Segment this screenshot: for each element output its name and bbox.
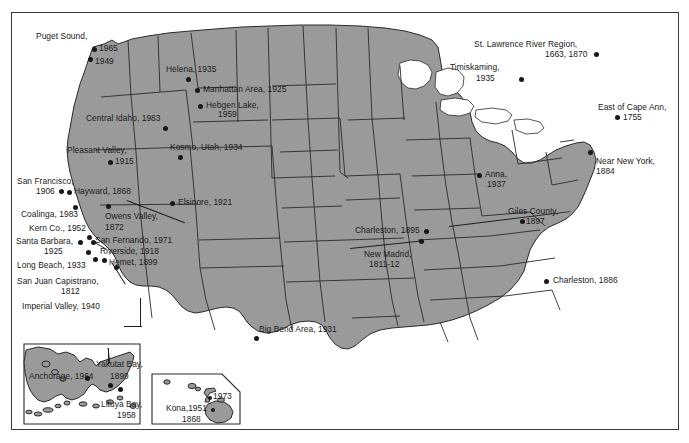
earthquake-map-figure: .land { fill:#9a9a9a; stroke:#2a2a2a; st… [0,0,689,443]
marker-anna[interactable] [477,173,482,178]
marker-new-madrid[interactable] [419,239,424,244]
label-owens-valley: Owens Valley, [105,212,158,222]
label-long-beach: Long Beach, 1933 [17,261,86,271]
marker-hebgen-lake[interactable] [198,104,203,109]
label-yakutat-bay-year: 1899 [110,372,129,382]
marker-near-new-york[interactable] [588,150,593,155]
leader-imperial-valley-v [140,298,141,326]
label-big-bend-area: Big Bend Area, 1931 [259,325,337,335]
marker-hawaii-1973[interactable] [208,396,212,400]
marker-manhattan-area[interactable] [195,88,200,93]
marker-timiskaming[interactable] [519,77,524,82]
label-kona: Kona,1951 [166,404,207,414]
label-pleasant-valley-year: 1915 [115,157,134,167]
marker-elsinore[interactable] [170,201,175,206]
marker-yakutat-bay[interactable] [108,383,113,388]
marker-big-bend-area[interactable] [254,336,259,341]
marker-long-beach[interactable] [93,257,98,262]
label-timiskaming: Timiskaming, [450,63,500,73]
marker-charleston-1895[interactable] [424,229,429,234]
label-imperial-valley: Imperial Valley, 1940 [22,302,100,312]
label-puget-sound-1949: 1949 [95,57,114,67]
label-central-idaho: Central Idaho, 1983 [86,114,161,124]
label-new-madrid-year: 1811-12 [369,260,399,270]
label-kern-co: Kern Co., 1952 [29,224,86,234]
label-hayward: Hayward, 1868 [74,187,131,197]
label-near-new-york-year: 1884 [596,167,615,177]
label-giles-county-year: 1897 [526,217,545,227]
label-elsinore: Elsinore, 1921 [178,198,232,208]
label-lituya-bay: Lituya Bay, [101,400,142,410]
marker-owens-valley[interactable] [106,204,111,209]
marker-central-idaho[interactable] [163,126,168,131]
label-lituya-bay-year: 1958 [117,411,136,421]
label-kona-year: 1868 [182,415,201,425]
conus-landmass [67,25,596,349]
label-charleston-1886: Charleston, 1886 [553,276,618,286]
marker-pleasant-valley[interactable] [108,160,113,165]
label-timiskaming-year: 1935 [476,74,495,84]
label-san-juan-capistrano: San Juan Capistrano, [17,277,99,287]
marker-charleston-1886[interactable] [544,279,549,284]
label-manhattan-area: Manhattan Area, 1925 [203,85,286,95]
marker-lituya-bay[interactable] [118,387,123,392]
label-san-fernando: San Fernando, 1971 [95,236,172,246]
marker-giles-county[interactable] [520,219,525,224]
marker-puget-sound-1965[interactable] [92,47,97,52]
marker-kona[interactable] [211,408,215,412]
label-hawaii-1973: 1973 [213,392,232,402]
label-pleasant-valley: Pleasant Valley, [67,146,127,156]
marker-kern-co[interactable] [87,235,92,240]
leader-imperial-valley [124,326,142,327]
label-helena: Helena, 1935 [166,65,216,75]
marker-kosmo-utah[interactable] [178,155,183,160]
marker-hemet[interactable] [102,258,107,263]
label-east-of-cape-ann-year: 1755 [623,113,642,123]
marker-san-francisco[interactable] [59,189,64,194]
marker-east-of-cape-ann[interactable] [615,115,620,120]
marker-hayward[interactable] [67,190,72,195]
label-charleston-1895: Charleston, 1895 [355,226,420,236]
marker-riverside[interactable] [86,250,91,255]
marker-helena[interactable] [186,77,191,82]
marker-puget-sound-1949[interactable] [88,57,93,62]
label-kosmo-utah: Kosmo, Utah, 1934 [170,143,243,153]
label-st-lawrence-river-region-years: 1663, 1870 [545,50,587,60]
marker-st-lawrence[interactable] [594,52,599,57]
label-puget-sound: Puget Sound, [36,32,87,42]
label-hebgen-lake-year: 1959 [218,110,237,120]
label-owens-valley-year: 1872 [105,223,124,233]
label-san-francisco-year: 1906 [36,187,55,197]
label-anchorage: Anchorage, 1964 [29,372,94,382]
marker-santa-barbara[interactable] [78,240,83,245]
label-riverside: Riverside, 1918 [100,247,159,257]
label-san-juan-capistrano-year: 1812 [61,287,80,297]
label-anna-year: 1937 [487,180,506,190]
label-hemet: Hemet, 1899 [109,258,158,268]
label-coalinga: Coalinga, 1983 [21,210,78,220]
label-puget-sound-1965: 1965 [99,44,118,54]
label-santa-barbara-year: 1925 [44,247,63,257]
label-yakutat-bay: Yakutat Bay, [96,360,143,370]
